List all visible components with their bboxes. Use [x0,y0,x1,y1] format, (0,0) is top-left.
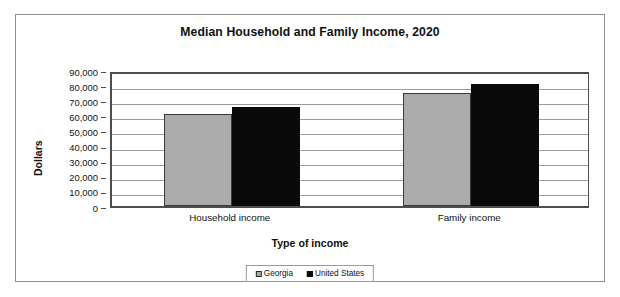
legend-swatch-georgia-icon [256,271,262,277]
y-axis-tick-mark [101,117,106,118]
bar-united-states-household-income [232,107,300,206]
y-axis-tick-label: 20,000 [69,172,98,183]
y-axis-tick-mark [101,163,106,164]
legend-swatch-united-states-icon [307,271,313,277]
x-axis-category-labels: Household incomeFamily income [110,212,589,228]
bar-georgia-household-income [164,114,232,206]
legend-item-georgia: Georgia [256,269,293,278]
y-axis-tick-mark [101,72,106,73]
y-axis-tick-label: 70,000 [69,97,98,108]
bar-united-states-family-income [471,84,539,206]
legend-item-united-states: United States [307,269,364,278]
y-axis-tick-mark [101,193,106,194]
y-axis-tick-mark [101,102,106,103]
chart-legend: Georgia United States [246,265,374,282]
y-axis-tick-label: 0 [93,203,98,214]
y-axis-tick-mark [101,208,106,209]
chart-title: Median Household and Family Income, 2020 [16,25,604,39]
y-axis-tick-label: 90,000 [69,67,98,78]
figure-frame: Median Household and Family Income, 2020… [15,14,605,282]
x-axis-category-label: Family income [350,212,590,223]
x-axis-title: Type of income [16,237,604,249]
bar-georgia-family-income [403,93,471,206]
x-axis-category-label: Household income [110,212,350,223]
bars-layer [112,74,588,206]
y-axis-tick-label: 40,000 [69,142,98,153]
plot-area [110,72,589,208]
y-axis-tick-label: 30,000 [69,157,98,168]
plot-wrapper: 010,00020,00030,00040,00050,00060,00070,… [96,72,590,223]
legend-label-united-states: United States [315,269,364,278]
y-axis-tick-label: 50,000 [69,127,98,138]
y-axis-tick-label: 60,000 [69,112,98,123]
y-axis-tick-mark [101,178,106,179]
y-axis-tick-mark [101,148,106,149]
y-axis-tick-label: 10,000 [69,187,98,198]
legend-label-georgia: Georgia [264,269,293,278]
y-axis-tick-labels: 010,00020,00030,00040,00050,00060,00070,… [32,66,106,214]
y-axis-tick-label: 80,000 [69,82,98,93]
y-axis-tick-mark [101,87,106,88]
y-axis-tick-mark [101,132,106,133]
